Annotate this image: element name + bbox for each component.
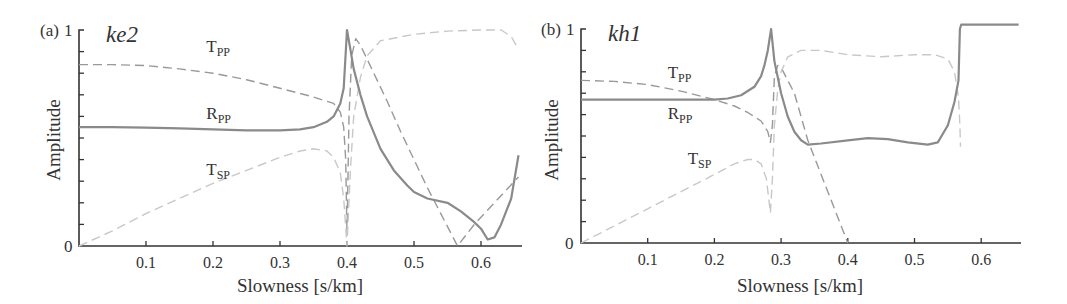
panel-b-ybottom-label: 0 xyxy=(565,234,574,253)
panel-a-ytop-label: 1 xyxy=(64,21,73,40)
panel-a-x-axis-label: Slowness [s/km] xyxy=(237,275,363,296)
x-tick-label: 0.4 xyxy=(838,251,858,268)
panel-a-ticks: 0.10.20.30.40.50.6 xyxy=(79,52,491,271)
curve-r-pp xyxy=(581,25,1019,145)
panel-b-curves xyxy=(581,25,1019,243)
panel-b-curve-labels: TPPRPPTSP xyxy=(668,63,712,171)
panel-b-axes xyxy=(581,29,1021,243)
panel-b-model-label: kh1 xyxy=(608,21,641,46)
panel-a-curves xyxy=(79,30,519,246)
curve-t-pp xyxy=(581,65,848,243)
panel-a-label: (a) xyxy=(40,21,59,40)
panel-a-curve-labels: TPPRPPTSP xyxy=(206,37,231,182)
curve-t-sp xyxy=(581,50,961,243)
panel-a-ybottom-label: 0 xyxy=(64,237,73,256)
figure: (a) 1 0 ke2 Amplitude Slowness [s/km] 0.… xyxy=(0,0,1067,304)
curve-r-pp xyxy=(79,30,519,240)
curve-label-r-pp: RPP xyxy=(206,104,231,126)
x-tick-label: 0.6 xyxy=(471,254,491,271)
panel-a: (a) 1 0 ke2 Amplitude Slowness [s/km] 0.… xyxy=(40,21,522,296)
curve-label-t-sp: TSP xyxy=(688,149,712,171)
x-tick-label: 0.1 xyxy=(136,254,156,271)
curve-label-t-pp: TPP xyxy=(668,63,692,85)
curve-label-t-pp: TPP xyxy=(206,37,230,59)
x-tick-label: 0.4 xyxy=(337,254,357,271)
panel-a-y-axis-label: Amplitude xyxy=(43,99,64,180)
x-tick-label: 0.2 xyxy=(704,251,724,268)
panel-b-label: (b) xyxy=(541,20,561,39)
x-tick-label: 0.2 xyxy=(203,254,223,271)
x-tick-label: 0.5 xyxy=(905,251,925,268)
x-tick-label: 0.3 xyxy=(771,251,791,268)
x-tick-label: 0.6 xyxy=(971,251,991,268)
x-tick-label: 0.1 xyxy=(638,251,658,268)
curve-label-t-sp: TSP xyxy=(206,160,230,182)
panel-a-model-label: ke2 xyxy=(106,22,138,47)
curve-label-r-pp: RPP xyxy=(668,104,693,126)
panel-b-y-axis-label: Amplitude xyxy=(541,99,562,180)
curve-t-sp xyxy=(79,30,519,246)
axis-line xyxy=(581,29,1021,243)
x-tick-label: 0.5 xyxy=(404,254,424,271)
panel-b: (b) 1 0 kh1 Amplitude Slowness [s/km] 0.… xyxy=(541,20,1021,296)
panel-b-ticks: 0.10.20.30.40.50.6 xyxy=(581,50,991,268)
panel-b-ytop-label: 1 xyxy=(566,20,575,39)
panel-b-x-axis-label: Slowness [s/km] xyxy=(737,275,863,296)
x-tick-label: 0.3 xyxy=(270,254,290,271)
